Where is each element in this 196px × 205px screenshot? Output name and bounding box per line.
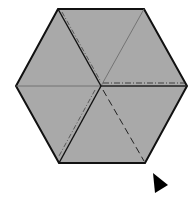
origami-diagram xyxy=(0,0,196,205)
right-arrow-icon xyxy=(153,173,168,193)
